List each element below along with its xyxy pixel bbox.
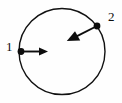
vector-2-shaft [77, 26, 98, 36]
point-2-label: 2 [108, 10, 115, 23]
diagram-svg [0, 0, 122, 103]
point-1-label: 1 [6, 40, 13, 53]
vector-1-arrowhead [39, 48, 48, 56]
figure-canvas: 1 2 [0, 0, 122, 103]
